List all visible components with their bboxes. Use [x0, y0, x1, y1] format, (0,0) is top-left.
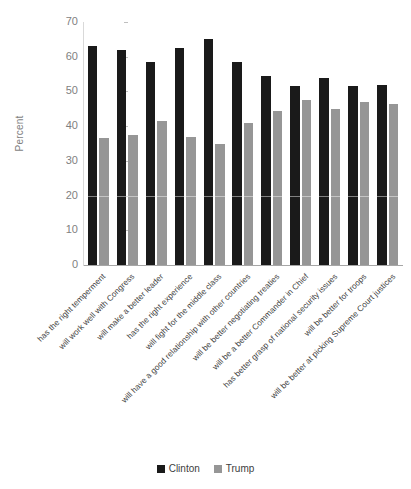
- bar-clinton[interactable]: [146, 62, 156, 265]
- y-tick-label: 60: [52, 51, 78, 62]
- y-tick-label: 0: [52, 259, 78, 270]
- x-axis-line: [84, 265, 403, 266]
- x-category-label: will have a good relationship with other…: [120, 272, 253, 405]
- bar-group: [286, 22, 315, 265]
- y-axis-ticks: 010203040506070: [46, 0, 78, 489]
- bar-trump[interactable]: [360, 102, 370, 265]
- x-category-label: has better grasp of national security is…: [221, 272, 339, 390]
- y-tick-label: 30: [52, 155, 78, 166]
- bar-group: [344, 22, 373, 265]
- bar-clinton[interactable]: [261, 76, 271, 265]
- x-category-label: will make a better leader: [96, 272, 166, 342]
- bar-clinton[interactable]: [377, 85, 387, 266]
- y-tick-label: 10: [52, 224, 78, 235]
- bar-clinton[interactable]: [88, 46, 98, 265]
- bar-trump[interactable]: [302, 100, 312, 265]
- x-category-label: will be a better Commander in Chief: [211, 272, 311, 372]
- bar-group: [315, 22, 344, 265]
- x-category-label: will be better negotiating treaties: [191, 272, 282, 363]
- bar-trump[interactable]: [128, 135, 138, 265]
- bar-group: [142, 22, 171, 265]
- x-category-label: has the right experience: [126, 272, 195, 341]
- bar-clinton[interactable]: [348, 86, 358, 265]
- bar-clinton[interactable]: [232, 62, 242, 265]
- bar-trump[interactable]: [186, 137, 196, 265]
- legend-label: Clinton: [169, 463, 200, 474]
- x-category-label: will be better for troops: [302, 272, 368, 338]
- legend-label: Trump: [226, 463, 255, 474]
- bar-clinton[interactable]: [204, 39, 214, 265]
- legend-swatch-icon: [214, 465, 222, 473]
- bar-group: [200, 22, 229, 265]
- bar-chart: Percent 010203040506070 has the right te…: [0, 0, 411, 489]
- bar-trump[interactable]: [331, 109, 341, 265]
- x-category-label: will fight for the middle class: [144, 272, 224, 352]
- bar-trump[interactable]: [244, 123, 254, 265]
- bar-group: [113, 22, 142, 265]
- bar-group: [229, 22, 258, 265]
- y-tick-label: 70: [52, 16, 78, 27]
- bar-trump[interactable]: [273, 111, 283, 265]
- y-tick-label: 40: [52, 120, 78, 131]
- bar-group: [171, 22, 200, 265]
- bar-trump[interactable]: [389, 104, 399, 265]
- bar-trump[interactable]: [157, 121, 167, 265]
- bar-clinton[interactable]: [290, 86, 300, 265]
- plot-area: [84, 22, 402, 265]
- bar-group: [257, 22, 286, 265]
- y-axis-title: Percent: [14, 94, 25, 174]
- legend-item-trump[interactable]: Trump: [214, 463, 255, 474]
- bar-trump[interactable]: [99, 138, 109, 265]
- chart-legend: ClintonTrump: [0, 463, 411, 474]
- bar-trump[interactable]: [215, 144, 225, 266]
- legend-item-clinton[interactable]: Clinton: [157, 463, 200, 474]
- bar-clinton[interactable]: [319, 78, 329, 265]
- bar-group: [84, 22, 113, 265]
- bar-clinton[interactable]: [117, 50, 127, 265]
- legend-swatch-icon: [157, 465, 165, 473]
- x-category-label: will be better at picking Supreme Court …: [268, 272, 396, 400]
- y-tick-label: 20: [52, 190, 78, 201]
- y-tick-label: 50: [52, 85, 78, 96]
- bar-clinton[interactable]: [175, 48, 185, 265]
- bar-group: [373, 22, 402, 265]
